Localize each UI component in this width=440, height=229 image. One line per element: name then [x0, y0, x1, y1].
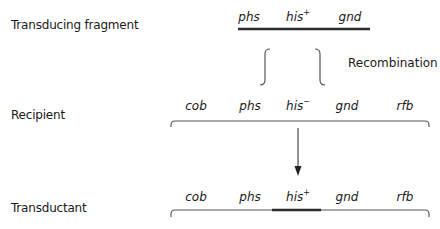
diagram-graphics: [0, 0, 440, 229]
recombination-right-bracket: [315, 49, 325, 85]
recipient-chromosome-line: [171, 121, 429, 127]
recombination-left-bracket: [260, 49, 270, 85]
arrow-down-icon: [295, 166, 302, 176]
